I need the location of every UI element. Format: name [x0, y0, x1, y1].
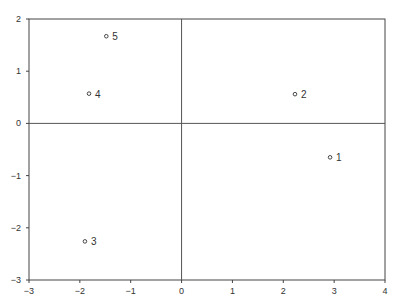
x-tick-label: 2: [281, 286, 286, 296]
point-label: 1: [336, 152, 342, 163]
y-tick-label: 2: [16, 14, 21, 24]
data-point: [87, 92, 91, 96]
data-point: [105, 34, 109, 38]
x-tick-label: −2: [75, 286, 85, 296]
x-tick-label: −1: [126, 286, 136, 296]
scatter-chart: −3−2−101234−3−2−101212345: [0, 0, 398, 307]
x-tick-label: 3: [332, 286, 337, 296]
point-label: 4: [95, 89, 101, 100]
point-label: 2: [301, 89, 307, 100]
point-label: 3: [91, 236, 97, 247]
y-tick-label: −3: [11, 275, 21, 285]
x-tick-label: 1: [230, 286, 235, 296]
x-tick-label: −3: [24, 286, 34, 296]
y-tick-label: 1: [16, 66, 21, 76]
plot-frame: [29, 19, 385, 280]
data-point: [83, 240, 87, 244]
y-tick-label: −1: [11, 171, 21, 181]
y-tick-label: −2: [11, 223, 21, 233]
data-point: [328, 156, 332, 160]
point-label: 5: [112, 31, 118, 42]
data-point: [293, 92, 297, 96]
x-tick-label: 4: [382, 286, 387, 296]
y-tick-label: 0: [16, 118, 21, 128]
x-tick-label: 0: [179, 286, 184, 296]
